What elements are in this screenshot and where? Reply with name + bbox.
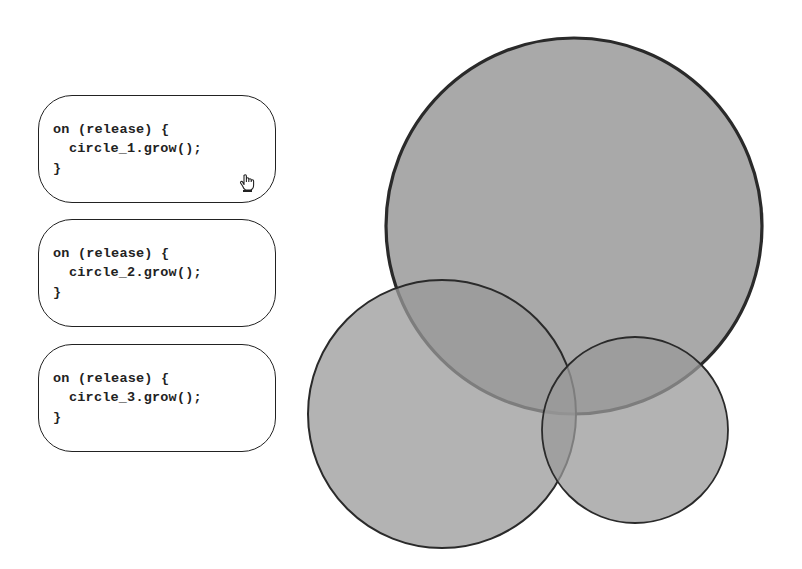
code-button-circle-2[interactable]: on (release) { circle_2.grow(); } bbox=[38, 219, 276, 327]
event-line: on (release) { bbox=[53, 371, 169, 386]
event-line: on (release) { bbox=[53, 122, 169, 137]
close-line: } bbox=[53, 161, 61, 176]
close-line: } bbox=[53, 285, 61, 300]
call-line: circle_1.grow(); bbox=[69, 141, 202, 156]
code-button-circle-1[interactable]: on (release) { circle_1.grow(); } bbox=[38, 95, 276, 203]
call-line: circle_2.grow(); bbox=[69, 265, 202, 280]
circle-2[interactable] bbox=[308, 280, 576, 548]
event-line: on (release) { bbox=[53, 246, 169, 261]
call-line: circle_3.grow(); bbox=[69, 390, 202, 405]
close-line: } bbox=[53, 410, 61, 425]
hand-pointer-icon bbox=[238, 173, 256, 193]
circle-3[interactable] bbox=[542, 337, 728, 523]
code-button-circle-3[interactable]: on (release) { circle_3.grow(); } bbox=[38, 344, 276, 452]
